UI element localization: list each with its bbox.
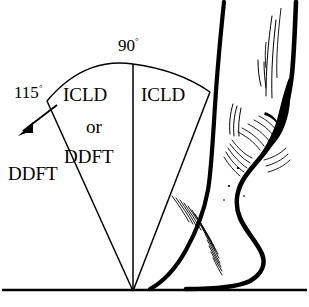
- sector-right-label: ICLD: [141, 85, 185, 104]
- sector-left-label-line3: DDFT: [64, 147, 114, 166]
- angle-diagram-figure: 90° 115° ICLD or DDFT ICLD DDFT: [0, 0, 309, 307]
- diagram-canvas: [0, 0, 309, 307]
- angle-label-90: 90°: [118, 37, 139, 54]
- degree-symbol-icon: °: [135, 36, 139, 46]
- degree-symbol-icon: °: [39, 83, 43, 93]
- sector-left-label-line1: ICLD: [63, 85, 107, 104]
- limb-rear-outline: [186, 2, 296, 289]
- angle-label-115: 115°: [14, 84, 42, 101]
- pastern-hatching: [230, 16, 276, 136]
- limb-inner-contour: [277, 8, 281, 78]
- limb-illustration: [150, 2, 296, 289]
- ray-right-boundary: [133, 92, 210, 291]
- angle-label-90-value: 90: [118, 36, 135, 55]
- sector-left-label-line2: or: [86, 117, 102, 136]
- outside-region-label: DDFT: [8, 164, 58, 183]
- limb-inner-contour-2: [265, 42, 266, 68]
- angle-label-115-value: 115: [14, 83, 39, 102]
